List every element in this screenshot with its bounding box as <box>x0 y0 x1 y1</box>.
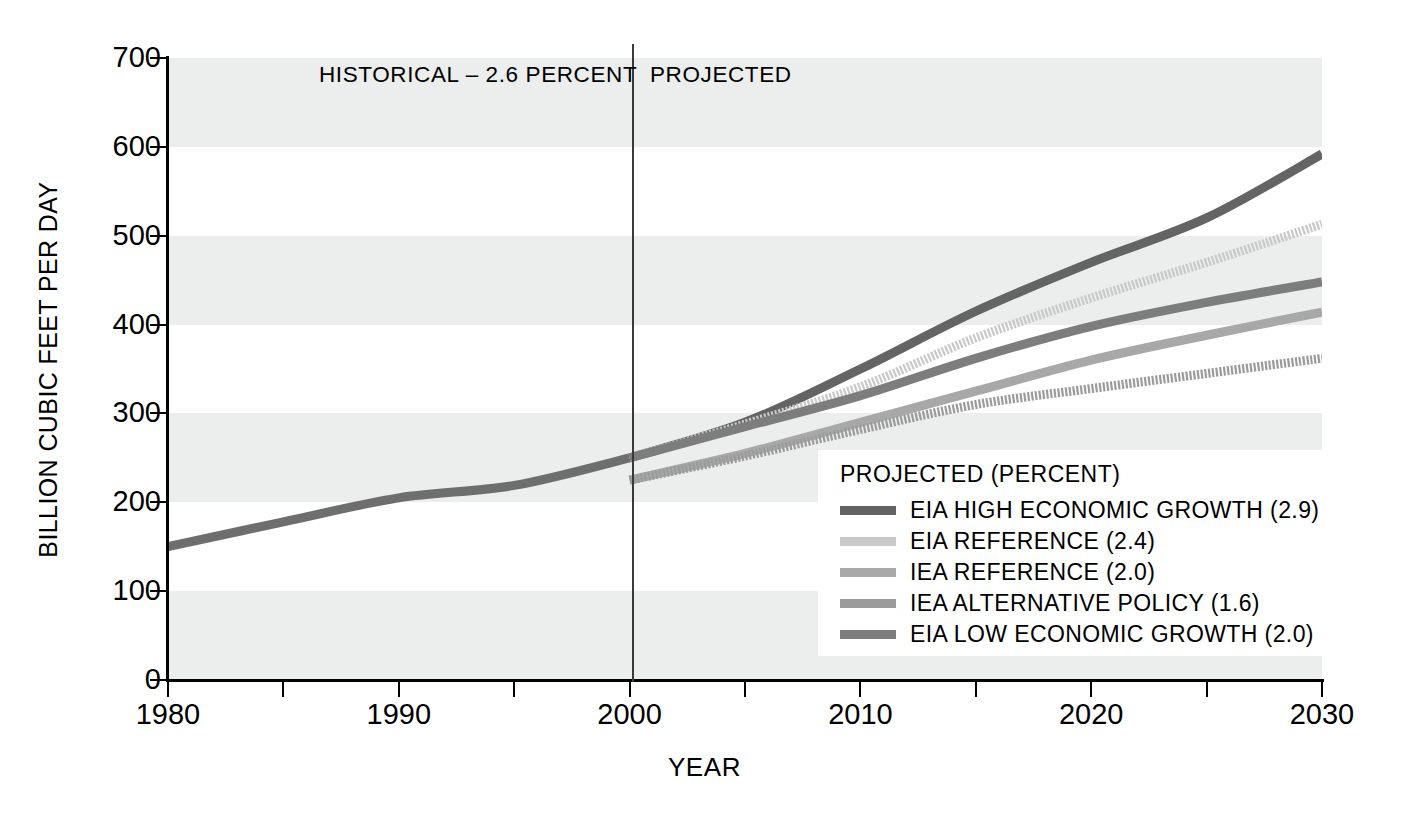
x-axis-tick-label: 1990 <box>339 700 459 729</box>
legend-swatch-icon <box>840 599 896 608</box>
y-axis-line <box>166 56 169 682</box>
legend-item[interactable]: EIA REFERENCE (2.4) <box>840 527 1155 556</box>
chart-figure: 0100200300400500600700 19801990200020102… <box>0 0 1409 814</box>
x-axis-title: YEAR <box>0 752 1409 783</box>
x-axis-tick <box>167 682 169 697</box>
legend-item[interactable]: EIA LOW ECONOMIC GROWTH (2.0) <box>840 620 1314 649</box>
historical-projected-divider <box>632 44 634 682</box>
legend-swatch-icon <box>840 568 896 577</box>
legend-item-label: EIA LOW ECONOMIC GROWTH (2.0) <box>910 623 1314 646</box>
y-axis-tick-label: 400 <box>113 310 161 339</box>
legend: PROJECTED (PERCENT) EIA HIGH ECONOMIC GR… <box>818 450 1324 656</box>
x-axis-tick <box>398 682 400 697</box>
legend-item-label: IEA REFERENCE (2.0) <box>910 561 1155 584</box>
legend-item[interactable]: EIA HIGH ECONOMIC GROWTH (2.9) <box>840 496 1319 525</box>
x-axis-tick-label: 2010 <box>800 700 920 729</box>
phase-label-projected: PROJECTED <box>650 62 792 88</box>
y-axis-title: BILLION CUBIC FEET PER DAY <box>34 110 63 630</box>
x-axis-tick <box>1206 682 1208 697</box>
x-axis-tick <box>282 682 284 697</box>
series-line <box>168 458 630 547</box>
legend-item-label: IEA ALTERNATIVE POLICY (1.6) <box>910 592 1260 615</box>
x-axis-tick <box>1090 682 1092 697</box>
x-axis-tick <box>513 682 515 697</box>
x-axis-tick <box>859 682 861 697</box>
legend-item-label: EIA HIGH ECONOMIC GROWTH (2.9) <box>910 499 1319 522</box>
legend-item[interactable]: IEA ALTERNATIVE POLICY (1.6) <box>840 589 1260 618</box>
y-axis-tick-label: 100 <box>113 576 161 605</box>
y-axis-tick-label: 300 <box>113 398 161 427</box>
x-axis-tick <box>629 682 631 697</box>
x-axis-tick <box>744 682 746 697</box>
y-axis-tick-label: 0 <box>145 665 161 694</box>
legend-item-label: EIA REFERENCE (2.4) <box>910 530 1155 553</box>
legend-item[interactable]: IEA REFERENCE (2.0) <box>840 558 1155 587</box>
x-axis-line <box>168 679 1324 682</box>
series-line <box>630 154 1322 458</box>
x-axis-tick <box>975 682 977 697</box>
legend-swatch-icon <box>840 630 896 639</box>
legend-swatch-icon <box>840 506 896 515</box>
y-axis-tick-label: 700 <box>113 43 161 72</box>
legend-title: PROJECTED (PERCENT) <box>840 461 1120 488</box>
x-axis-tick-label: 2020 <box>1031 700 1151 729</box>
x-axis-tick <box>1321 682 1323 697</box>
y-axis-tick-label: 600 <box>113 132 161 161</box>
x-axis-tick-label: 1980 <box>108 700 228 729</box>
y-axis-tick-label: 500 <box>113 221 161 250</box>
phase-label-historical: HISTORICAL – 2.6 PERCENT <box>319 62 637 88</box>
x-axis-tick-label: 2030 <box>1262 700 1382 729</box>
x-axis-tick-label: 2000 <box>570 700 690 729</box>
legend-swatch-icon <box>840 537 896 546</box>
y-axis-tick-label: 200 <box>113 487 161 516</box>
